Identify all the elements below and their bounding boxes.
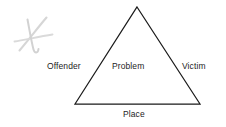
triangle-outline — [75, 7, 200, 104]
label-offender: Offender — [47, 61, 81, 71]
annotation-horizontal-stroke — [15, 35, 53, 42]
triangle-shape — [75, 7, 200, 104]
label-problem: Problem — [112, 61, 144, 71]
annotation-vertical-curve-stroke — [28, 20, 39, 53]
handwritten-x-annotation — [15, 18, 53, 53]
label-place: Place — [123, 109, 145, 119]
label-victim: Victim — [182, 61, 206, 71]
diagram-canvas: Offender Problem Victim Place — [0, 0, 226, 127]
